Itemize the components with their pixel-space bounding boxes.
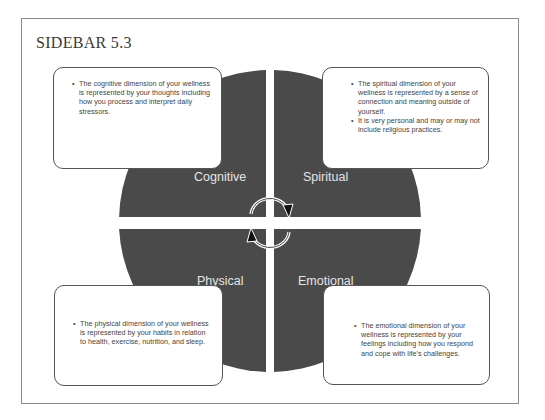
note-physical: The physical dimension of your wellness … bbox=[54, 285, 223, 386]
note-bullet: The spiritual dimension of your wellness… bbox=[351, 79, 482, 116]
note-bullet: It is very personal and may or may not i… bbox=[351, 116, 482, 134]
note-bullet: The emotional dimension of your wellness… bbox=[354, 321, 483, 358]
note-spiritual: The spiritual dimension of your wellness… bbox=[322, 67, 489, 169]
note-emotional: The emotional dimension of your wellness… bbox=[323, 285, 490, 385]
note-cognitive: The cognitive dimension of your wellness… bbox=[53, 67, 222, 169]
note-bullet: The cognitive dimension of your wellness… bbox=[72, 79, 211, 116]
quadrant-label-cognitive: Cognitive bbox=[194, 170, 246, 184]
quadrant-label-spiritual: Spiritual bbox=[303, 170, 348, 184]
note-bullet: The physical dimension of your wellness … bbox=[73, 319, 212, 347]
